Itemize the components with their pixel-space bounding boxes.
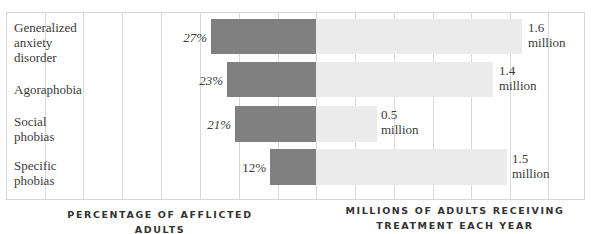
grid-line xyxy=(122,12,123,200)
bar-millions-agoraphobia xyxy=(316,62,493,97)
bar-millions-social-phobias xyxy=(316,106,377,142)
millions-label-specific-phobias: 1.5 million xyxy=(512,151,550,181)
category-label-social-phobias: Social phobias xyxy=(14,114,54,144)
axis-title-percentage: PERCENTAGE OF AFFLICTED ADULTS RECEIVING… xyxy=(40,207,280,234)
pct-label-generalized-anxiety: 27% xyxy=(167,30,207,46)
bar-pct-social-phobias xyxy=(235,106,316,142)
bar-pct-generalized-anxiety xyxy=(211,19,316,54)
pct-label-agoraphobia: 23% xyxy=(183,73,223,89)
millions-label-agoraphobia: 1.4 million xyxy=(499,63,537,93)
millions-label-generalized-anxiety: 1.6 million xyxy=(528,20,566,50)
pct-label-specific-phobias: 12% xyxy=(226,160,266,176)
grid-line xyxy=(83,12,84,200)
millions-label-social-phobias: 0.5 million xyxy=(381,107,419,137)
bar-millions-generalized-anxiety xyxy=(316,19,522,54)
axis-title-millions: MILLIONS OF ADULTS RECEIVING TREATMENT E… xyxy=(345,203,565,233)
pct-label-social-phobias: 21% xyxy=(191,117,231,133)
bar-pct-agoraphobia xyxy=(227,62,316,97)
category-label-specific-phobias: Specific phobias xyxy=(14,158,57,188)
category-label-generalized-anxiety: Generalized anxiety disorder xyxy=(14,20,77,65)
bar-pct-specific-phobias xyxy=(270,149,316,185)
bar-millions-specific-phobias xyxy=(316,149,507,185)
category-label-agoraphobia: Agoraphobia xyxy=(14,82,82,97)
grid-line xyxy=(161,12,162,200)
